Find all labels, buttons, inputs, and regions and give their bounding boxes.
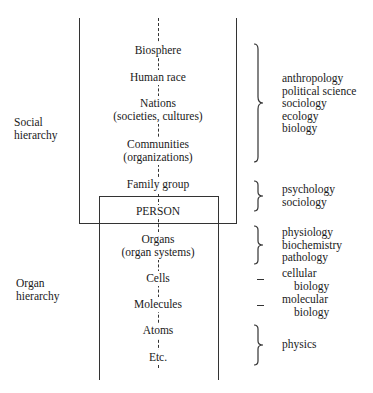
level-name: Atoms xyxy=(143,324,174,336)
level-subtitle: (organ systems) xyxy=(100,246,216,259)
disciplines-social: anthropology political science sociology… xyxy=(282,72,356,135)
social-box-right-edge xyxy=(236,18,237,223)
label-line: Social xyxy=(14,116,57,129)
dash-connector-icon xyxy=(257,305,264,306)
dash-connector-icon xyxy=(257,279,264,280)
level-family-group: Family group xyxy=(100,177,216,192)
discipline: anthropology xyxy=(282,72,356,85)
discipline: sociology xyxy=(282,97,356,110)
organ-box-right-edge xyxy=(218,196,219,380)
discipline: physiology xyxy=(282,226,342,239)
discipline: biology xyxy=(282,306,329,319)
level-molecules: Molecules xyxy=(100,297,216,312)
brace-icon xyxy=(252,180,266,212)
disciplines-atoms: physics xyxy=(282,338,317,351)
disciplines-cells: cellular biology xyxy=(282,267,329,292)
level-name: Organs xyxy=(100,233,216,246)
discipline: psychology xyxy=(282,183,335,196)
disciplines-person: psychology sociology xyxy=(282,183,335,208)
level-subtitle: (organizations) xyxy=(100,151,216,164)
organ-box-top-edge xyxy=(99,196,219,197)
discipline: sociology xyxy=(282,196,335,209)
discipline: physics xyxy=(282,338,317,351)
level-atoms: Atoms xyxy=(100,323,216,338)
discipline: biology xyxy=(282,122,356,135)
level-nations: Nations (societies, cultures) xyxy=(100,96,216,124)
label-line: hierarchy xyxy=(16,290,59,303)
brace-icon xyxy=(252,324,266,366)
disciplines-molecules: molecular biology xyxy=(282,293,329,318)
disciplines-organs: physiology biochemistry pathology xyxy=(282,226,342,264)
level-name: Communities xyxy=(100,138,216,151)
discipline: molecular xyxy=(282,293,329,306)
level-etc: Etc. xyxy=(100,350,216,365)
level-cells: Cells xyxy=(100,271,216,286)
social-hierarchy-label: Social hierarchy xyxy=(14,116,57,141)
level-name: PERSON xyxy=(134,205,182,217)
level-biosphere: Biosphere xyxy=(100,43,216,58)
level-communities: Communities (organizations) xyxy=(100,137,216,165)
label-line: Organ xyxy=(16,277,59,290)
level-person: PERSON xyxy=(100,204,216,219)
discipline: biology xyxy=(282,280,329,293)
level-subtitle: (societies, cultures) xyxy=(100,110,216,123)
label-line: hierarchy xyxy=(14,129,57,142)
level-name: Family group xyxy=(127,178,189,190)
level-name: Etc. xyxy=(149,351,167,363)
level-name: Nations xyxy=(100,97,216,110)
level-name: Human race xyxy=(130,71,186,83)
level-name: Molecules xyxy=(134,298,182,310)
social-box-left-edge xyxy=(79,18,80,223)
discipline: political science xyxy=(282,85,356,98)
level-human-race: Human race xyxy=(100,70,216,85)
brace-icon xyxy=(252,225,266,265)
discipline: biochemistry xyxy=(282,239,342,252)
level-organs: Organs (organ systems) xyxy=(100,232,216,260)
discipline: pathology xyxy=(282,251,342,264)
discipline: cellular xyxy=(282,267,329,280)
brace-icon xyxy=(252,43,266,163)
discipline: ecology xyxy=(282,110,356,123)
level-name: Biosphere xyxy=(135,44,182,56)
level-name: Cells xyxy=(146,272,170,284)
organ-hierarchy-label: Organ hierarchy xyxy=(16,277,59,302)
